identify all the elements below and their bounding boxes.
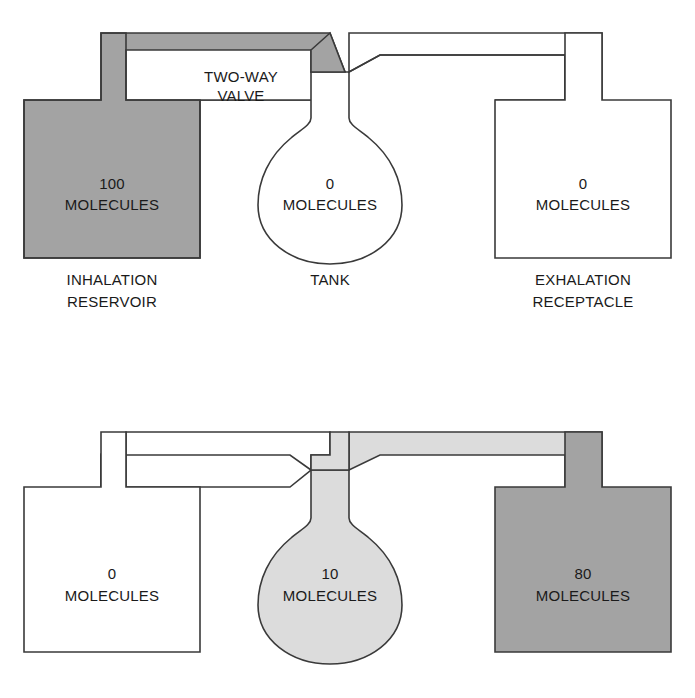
tank-caption-top: TANK	[310, 271, 350, 288]
exhalation-duct-elbow-top	[349, 55, 565, 100]
inhalation-reservoir-count: 100	[99, 175, 125, 192]
panel-inhalation-phase: TWO-WAY VALVE 100 MOLECULES 0 MOLECULES …	[24, 33, 671, 310]
inhalation-reservoir-count-bottom: 0	[108, 565, 117, 582]
exhalation-gas-path-shaded	[349, 432, 602, 487]
inhalation-reservoir-units: MOLECULES	[65, 196, 159, 213]
tank-units-top: MOLECULES	[283, 196, 377, 213]
exhalation-receptacle-units-bottom: MOLECULES	[536, 587, 630, 604]
two-way-valve-label-line1: TWO-WAY	[204, 68, 278, 85]
exhalation-receptacle-count-top: 0	[579, 175, 588, 192]
tank-units-bottom: MOLECULES	[283, 587, 377, 604]
inhalation-reservoir-units-bottom: MOLECULES	[65, 587, 159, 604]
diagram-root: TWO-WAY VALVE 100 MOLECULES 0 MOLECULES …	[0, 0, 695, 698]
two-way-valve-diagram: TWO-WAY VALVE 100 MOLECULES 0 MOLECULES …	[0, 0, 695, 698]
exhalation-receptacle-box-bottom	[495, 432, 671, 652]
tank-count-bottom: 10	[321, 565, 338, 582]
exhalation-receptacle-units-top: MOLECULES	[536, 196, 630, 213]
exhalation-receptacle-count-bottom: 80	[574, 565, 591, 582]
exhalation-receptacle-caption-line1: EXHALATION	[535, 271, 631, 288]
tank-count-top: 0	[326, 175, 335, 192]
two-way-valve-label-line2: VALVE	[217, 87, 264, 104]
panel-exhalation-phase: 0 MOLECULES 10 MOLECULES 80 MOLECULES	[24, 432, 671, 664]
exhalation-duct-top	[349, 33, 602, 100]
exhalation-receptacle-box-top	[495, 33, 671, 258]
exhalation-receptacle-caption-line2: RECEPTACLE	[533, 293, 634, 310]
inhalation-reservoir-caption-line2: RESERVOIR	[67, 293, 157, 310]
inhalation-reservoir-caption-line1: INHALATION	[67, 271, 158, 288]
